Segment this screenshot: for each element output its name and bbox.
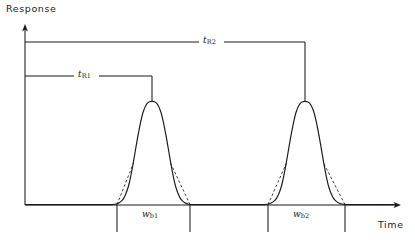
- retention-time-2-label: tR2: [203, 35, 216, 46]
- baseline-width-2-variable: w: [293, 209, 301, 219]
- baseline-width-1-label: wb1: [142, 209, 158, 220]
- y-axis-label: Response: [6, 3, 56, 14]
- retention-time-1-subscript: R1: [82, 72, 91, 80]
- baseline-width-2-subscript: b2: [301, 212, 310, 220]
- baseline-width-2-label: wb2: [293, 209, 309, 220]
- baseline-width-1-subscript: b1: [150, 212, 159, 220]
- peak-1-left-tangent: [117, 163, 134, 205]
- retention-time-1-label: tR1: [78, 69, 91, 80]
- retention-time-2-subscript: R2: [207, 38, 216, 46]
- baseline-width-1-variable: w: [142, 209, 150, 219]
- chromatogram-trace: [25, 101, 396, 204]
- chromatogram-figure: Response Time tR1 tR2 wb1 wb2: [0, 0, 415, 242]
- x-axis-label: Time: [378, 219, 404, 230]
- peak-2-left-tangent: [268, 163, 287, 205]
- peak-2-right-tangent: [324, 163, 346, 205]
